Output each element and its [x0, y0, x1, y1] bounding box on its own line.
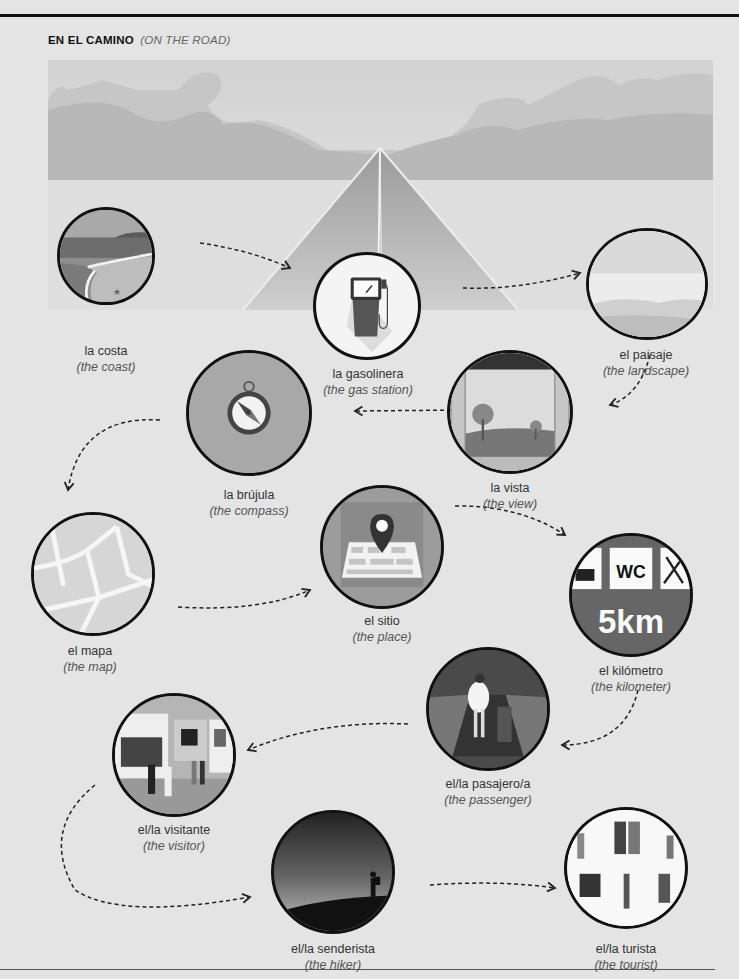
- vocab-costa: la costa (the coast): [16, 343, 196, 375]
- page-title: EN EL CAMINO (ON THE ROAD): [48, 34, 230, 46]
- english-translation: (the landscape): [556, 363, 736, 379]
- spanish-term: el kilómetro: [541, 663, 721, 679]
- coast-image: ★: [57, 207, 155, 305]
- vocab-mapa: el mapa (the map): [0, 643, 180, 675]
- title-english: (ON THE ROAD): [140, 34, 230, 46]
- gallery-visitors-image: [112, 693, 236, 817]
- english-translation: (the view): [420, 496, 600, 512]
- hiker-image: [271, 810, 395, 934]
- spanish-term: la costa: [16, 343, 196, 359]
- english-translation: (the place): [292, 629, 472, 645]
- spanish-term: la vista: [420, 480, 600, 496]
- spanish-term: la brújula: [159, 487, 339, 503]
- spanish-term: el sitio: [292, 613, 472, 629]
- window-view-image: [447, 350, 573, 474]
- english-translation: (the tourist): [536, 957, 716, 973]
- spanish-term: el/la senderista: [243, 941, 423, 957]
- english-translation: (the compass): [159, 503, 339, 519]
- spanish-term: el/la visitante: [84, 822, 264, 838]
- wc-sign-text: WC: [616, 562, 646, 582]
- english-translation: (the visitor): [84, 838, 264, 854]
- landscape-image: [586, 228, 708, 340]
- vocab-paisaje: el paisaje (the landscape): [556, 347, 736, 379]
- vocab-sitio: el sitio (the place): [292, 613, 472, 645]
- spanish-term: el/la turista: [536, 941, 716, 957]
- spanish-term: el mapa: [0, 643, 180, 659]
- svg-text:★: ★: [113, 287, 121, 297]
- gas-pump-icon: [313, 252, 421, 360]
- english-translation: (the coast): [16, 359, 196, 375]
- map-pin-icon: [320, 485, 444, 609]
- english-translation: (the kilometer): [541, 679, 721, 695]
- vocab-pasajero: el/la pasajero/a (the passenger): [398, 776, 578, 808]
- bottom-rule: [0, 969, 715, 970]
- top-rule: [0, 14, 739, 17]
- vocab-brujula: la brújula (the compass): [159, 487, 339, 519]
- distance-sign-text: 5km: [598, 603, 664, 640]
- street-map-image: [31, 512, 155, 636]
- title-spanish: EN EL CAMINO: [48, 34, 134, 46]
- english-translation: (the map): [0, 659, 180, 675]
- vocab-vista: la vista (the view): [420, 480, 600, 512]
- spanish-term: el/la pasajero/a: [398, 776, 578, 792]
- vocab-kilometro: el kilómetro (the kilometer): [541, 663, 721, 695]
- spanish-term: la gasolinera: [278, 366, 458, 382]
- english-translation: (the passenger): [398, 792, 578, 808]
- passenger-image: [426, 647, 550, 771]
- compass-icon: [186, 350, 312, 476]
- road-sign-icon: WC 5km: [569, 533, 693, 657]
- vocab-visitante: el/la visitante (the visitor): [84, 822, 264, 854]
- spanish-term: el paisaje: [556, 347, 736, 363]
- english-translation: (the hiker): [243, 957, 423, 973]
- tourists-image: [564, 807, 688, 929]
